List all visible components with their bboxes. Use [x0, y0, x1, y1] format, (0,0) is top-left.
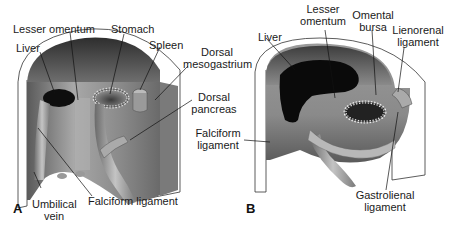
- label-spleen-a: Spleen: [149, 39, 183, 51]
- label-omental-bursa-line1: Omental: [348, 9, 398, 21]
- label-gastrolienal-ligament-line1: Gastrolienal: [351, 189, 419, 201]
- label-liver-a: Liver: [16, 42, 40, 54]
- label-falciform-ligament-b: Falciform ligament: [192, 127, 244, 151]
- label-lienorenal-ligament-line2: ligament: [389, 36, 447, 48]
- label-falciform-ligament-b-line2: ligament: [192, 139, 244, 151]
- label-umbilical-vein-line1: Umbilical: [32, 198, 76, 210]
- label-dorsal-mesogastrium-line2: mesogastrium: [183, 58, 251, 70]
- label-lesser-omentum-b-line2: omentum: [296, 15, 350, 27]
- panel-letter-a: A: [13, 201, 22, 216]
- label-lienorenal-ligament: Lienorenal ligament: [389, 24, 447, 48]
- label-umbilical-vein: Umbilical vein: [32, 198, 76, 222]
- label-gastrolienal-ligament: Gastrolienal ligament: [351, 189, 419, 213]
- embryo-mesentery-figure: Lesser omentum Stomach Liver Spleen Dors…: [0, 0, 449, 226]
- label-stomach-a: Stomach: [111, 23, 154, 35]
- label-falciform-ligament-b-line1: Falciform: [192, 127, 244, 139]
- label-dorsal-pancreas-line2: pancreas: [190, 103, 238, 115]
- label-dorsal-mesogastrium: Dorsal mesogastrium: [183, 46, 251, 70]
- label-gastrolienal-ligament-line2: ligament: [351, 201, 419, 213]
- label-dorsal-mesogastrium-line1: Dorsal: [183, 46, 251, 58]
- label-lesser-omentum-b: Lesser omentum: [296, 3, 350, 27]
- label-dorsal-pancreas: Dorsal pancreas: [190, 91, 238, 115]
- label-lesser-omentum-a: Lesser omentum: [13, 23, 95, 35]
- label-umbilical-vein-line2: vein: [32, 210, 76, 222]
- label-liver-b: Liver: [258, 31, 282, 43]
- label-falciform-ligament-a: Falciform ligament: [88, 195, 178, 207]
- panel-letter-b: B: [246, 201, 255, 216]
- label-lesser-omentum-b-line1: Lesser: [296, 3, 350, 15]
- panel-b-drawing: [255, 38, 425, 192]
- label-lienorenal-ligament-line1: Lienorenal: [389, 24, 447, 36]
- label-dorsal-pancreas-line1: Dorsal: [190, 91, 238, 103]
